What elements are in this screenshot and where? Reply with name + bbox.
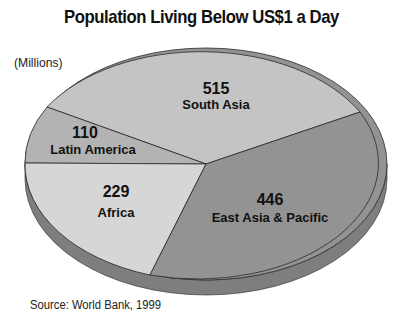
slice-label-south-asia: South Asia <box>182 97 250 112</box>
slice-value-south-asia: 515 <box>203 80 230 97</box>
slice-value-africa: 229 <box>103 183 130 200</box>
slice-label-east-asia-pacific: East Asia & Pacific <box>212 210 329 225</box>
slice-value-east-asia-pacific: 446 <box>257 191 284 208</box>
slice-label-africa: Africa <box>98 205 136 220</box>
slice-value-latin-america: 110 <box>72 124 98 141</box>
source-note: Source: World Bank, 1999 <box>30 298 161 312</box>
slice-label-latin-america: Latin America <box>50 142 136 157</box>
pie-chart: 515 South Asia 110 Latin America 229 Afr… <box>0 0 403 316</box>
